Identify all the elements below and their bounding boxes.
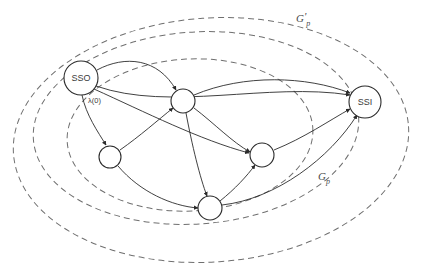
region-boundaries [5, 4, 417, 275]
edge-n4-to-n3 [220, 165, 255, 201]
node-n2-circle[interactable] [99, 146, 121, 168]
region-label-g-p-main: G [318, 170, 326, 182]
region-label-g-p-sub: p [325, 177, 330, 186]
diagram-canvas: SSO SSI [0, 0, 423, 277]
region-label-g-p: Gp [318, 170, 330, 186]
node-n3-circle[interactable] [250, 143, 274, 167]
node-n4[interactable] [198, 196, 222, 220]
node-ssi-label: SSI [358, 97, 373, 107]
graph-edges [82, 61, 357, 208]
edge-label-lambda-zero: λ(0) [88, 96, 101, 105]
node-n3[interactable] [250, 143, 274, 167]
node-n4-circle[interactable] [198, 196, 222, 220]
region-label-g-prime-p: G'p [296, 10, 310, 28]
edge-n4-to-ssi [222, 115, 357, 205]
node-sso[interactable]: SSO [64, 61, 98, 95]
node-sso-label: SSO [71, 73, 90, 83]
region-label-g-prime-p-main: G [296, 12, 304, 24]
region-label-g-prime-p-sub: p [305, 19, 310, 28]
region-g-p-boundary [27, 21, 366, 235]
diagram-labels: λ(0) G'p Gp [88, 10, 330, 186]
edge-n1-to-n4 [186, 113, 207, 196]
edge-sso-to-ssi [96, 86, 350, 97]
edge-n1-to-n3 [194, 108, 250, 152]
edge-n2-to-n4 [118, 166, 198, 208]
edge-sso-to-n1 [97, 61, 176, 90]
node-n1-circle[interactable] [171, 89, 195, 113]
edge-n2-to-n1 [120, 108, 173, 150]
node-n2[interactable] [99, 146, 121, 168]
node-ssi[interactable]: SSI [349, 86, 381, 118]
node-n1[interactable] [171, 89, 195, 113]
edge-n3-to-ssi [274, 109, 350, 150]
graph-diagram-svg: SSO SSI [0, 0, 423, 277]
